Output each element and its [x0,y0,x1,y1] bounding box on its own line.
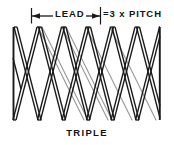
thread-flank-up-b [114,27,138,120]
thread-flank-down-b [91,27,115,120]
thread-flank-up [111,27,135,120]
figure-caption: TRIPLE [0,128,174,138]
thread-flank-up [87,27,111,120]
thread-flank-up [136,27,160,120]
lead-right-arrowhead [92,13,100,19]
back-helix-line [66,27,112,120]
lead-left-arrowhead [32,13,40,19]
thread-flank-down-b [42,27,66,120]
thread-flank-down-b [17,27,41,120]
back-helix-lines [38,27,156,120]
thread-flank-down-b [66,27,90,120]
crest-zigzag-lines [13,27,160,120]
thread-flank-up-b [16,27,40,120]
triple-thread-drawing [0,0,174,145]
thread-flank-down [63,27,87,120]
thread-flank-down [88,27,112,120]
lead-dimension-label: LEAD [55,9,84,19]
thread-diagram-figure: LEAD =3 x PITCH TRIPLE [0,0,174,145]
thread-flank-down [39,27,63,120]
pitch-dimension-label: =3 x PITCH [103,9,162,19]
thread-flank-down-b [115,27,139,120]
